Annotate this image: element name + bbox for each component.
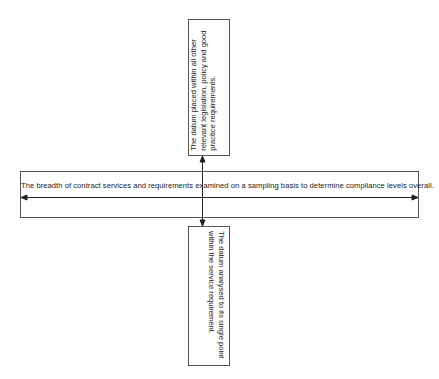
connector-arrows	[0, 0, 439, 379]
arrowhead-down-icon	[200, 220, 205, 226]
arrowhead-right-icon	[412, 195, 418, 200]
arrowhead-up-icon	[200, 156, 205, 162]
arrowhead-left-icon	[21, 195, 27, 200]
